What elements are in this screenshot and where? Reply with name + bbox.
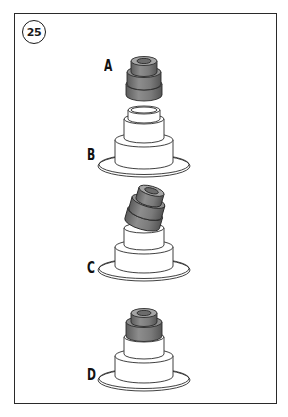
illustration — [0, 0, 288, 417]
base-part-b — [98, 106, 190, 177]
seal-part-a — [126, 57, 162, 102]
assembly-part-c — [98, 181, 190, 281]
assembly-part-d — [98, 309, 190, 392]
